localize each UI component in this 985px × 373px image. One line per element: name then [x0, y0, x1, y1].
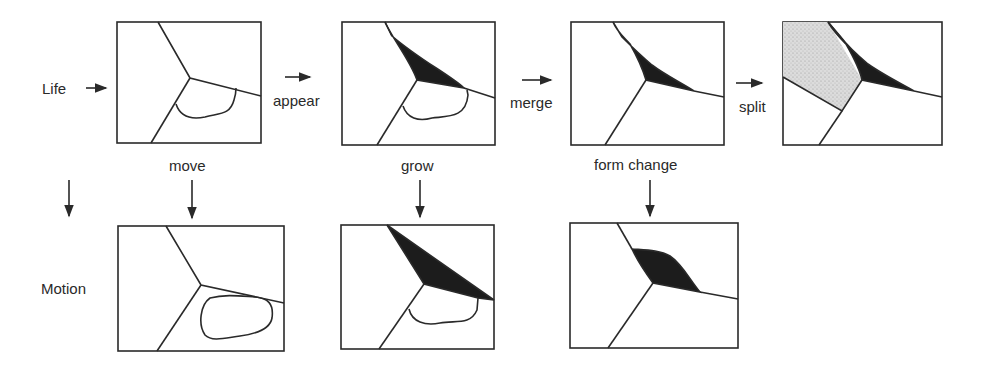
panel-life-merge	[571, 22, 724, 145]
panel-motion-grow	[341, 225, 494, 349]
transition-label-split: split	[739, 98, 766, 115]
panel-life-appear	[342, 22, 495, 145]
panel-life-split	[783, 22, 942, 145]
panel-life-initial	[117, 22, 261, 143]
row-label-life: Life	[42, 80, 66, 97]
transition-label-form-change: form change	[594, 156, 677, 173]
transition-label-grow: grow	[401, 157, 434, 174]
panel-motion-form-change	[570, 223, 738, 348]
panel-motion-move	[118, 226, 284, 351]
transition-label-appear: appear	[273, 92, 320, 109]
row-label-motion: Motion	[41, 280, 86, 297]
transition-label-move: move	[169, 157, 206, 174]
diagram-canvas	[0, 0, 985, 373]
transition-label-merge: merge	[510, 94, 553, 111]
